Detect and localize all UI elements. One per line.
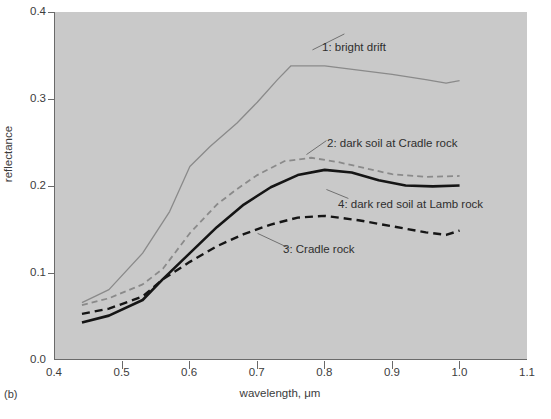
ytick-label-0.4: 0.4: [0, 6, 46, 18]
xtick-label-0.5: 0.5: [100, 367, 144, 379]
leader-line-2: [306, 141, 326, 155]
y-axis-title: reflectance: [2, 94, 14, 214]
panel-letter: (b): [4, 388, 17, 400]
xtick-label-1.0: 1.0: [437, 367, 481, 379]
series-label-4: 4: dark red soil at Lamb rock: [338, 198, 483, 210]
plot-area: [54, 12, 527, 360]
series-label-2: 2: dark soil at Cradle rock: [327, 137, 457, 149]
xtick-label-0.8: 0.8: [302, 367, 346, 379]
xtick-label-1.1: 1.1: [505, 367, 549, 379]
ytick-label-0.0: 0.0: [0, 354, 46, 366]
ytick-label-0.1: 0.1: [0, 267, 46, 279]
xtick-label-0.9: 0.9: [370, 367, 414, 379]
figure-panel-b: 0.4 0.3 0.2 0.1 0.0 0.4 0.5 0.6 0.7 0.8 …: [0, 0, 551, 419]
series-label-3: 3: Cradle rock: [283, 243, 355, 255]
series-line-3: [82, 216, 460, 314]
series-line-4: [82, 170, 460, 323]
series-line-2: [82, 158, 460, 305]
xtick-label-0.6: 0.6: [167, 367, 211, 379]
series-label-1: 1: bright drift: [322, 41, 386, 53]
xtick-label-0.7: 0.7: [235, 367, 279, 379]
x-axis-title: wavelength, μm: [180, 387, 380, 399]
series-canvas: [55, 12, 527, 359]
caption-fragment: [4, 412, 464, 419]
xtick-label-0.4: 0.4: [32, 367, 76, 379]
